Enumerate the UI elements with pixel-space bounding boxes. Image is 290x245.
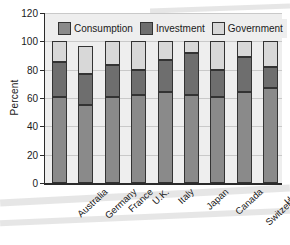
- x-label-u-k: U.K.: [150, 186, 171, 207]
- chart-legend: ConsumptionInvestmentGovernment: [54, 19, 287, 38]
- y-tick-mark: [40, 13, 44, 14]
- bar-segment-investment: [52, 62, 67, 97]
- bar-segment-government: [131, 41, 146, 69]
- bar-segment-government: [78, 46, 93, 74]
- legend-label-investment: Investment: [156, 23, 205, 34]
- legend-entry-consumption: Consumption: [58, 22, 133, 35]
- bar-segment-consumption: [158, 92, 173, 183]
- bar-segment-investment: [237, 57, 252, 92]
- legend-swatch-consumption: [58, 22, 71, 35]
- y-tick-label: 40: [27, 121, 38, 132]
- bar-segment-consumption: [52, 97, 67, 183]
- stacked-bar-chart: Percent 020406080100120 ConsumptionInves…: [0, 0, 290, 245]
- bar-segment-government: [237, 41, 252, 57]
- bar-segment-consumption: [237, 92, 252, 183]
- bar-u-s: [263, 41, 278, 183]
- legend-entry-government: Government: [212, 22, 283, 35]
- bar-segment-consumption: [131, 95, 146, 183]
- bar-segment-government: [52, 41, 67, 62]
- bars-layer: [44, 13, 282, 185]
- bar-segment-consumption: [184, 95, 199, 183]
- bar-france: [105, 41, 120, 183]
- y-tick-mark: [40, 70, 44, 71]
- bar-segment-investment: [105, 65, 120, 96]
- bar-segment-government: [105, 41, 120, 65]
- x-axis-labels: AustraliaGermanyFranceU.K.ItalyJapanCana…: [44, 186, 282, 244]
- y-tick-mark: [40, 183, 44, 184]
- legend-entry-investment: Investment: [140, 22, 205, 35]
- y-axis-line: [44, 13, 45, 185]
- bar-segment-government: [158, 41, 173, 59]
- y-tick-label: 20: [27, 149, 38, 160]
- bar-segment-consumption: [78, 105, 93, 183]
- x-label-italy: Italy: [176, 186, 196, 206]
- legend-label-consumption: Consumption: [74, 23, 133, 34]
- bar-u-k: [131, 41, 146, 183]
- y-tick-mark: [40, 155, 44, 156]
- y-tick-label: 60: [27, 93, 38, 104]
- bar-australia: [52, 41, 67, 183]
- y-tick-label: 80: [27, 64, 38, 75]
- scan-artifact: [150, 4, 290, 14]
- y-tick-label: 100: [21, 36, 38, 47]
- y-tick-mark: [40, 41, 44, 42]
- bar-segment-investment: [263, 67, 278, 88]
- bar-segment-investment: [131, 70, 146, 96]
- bar-segment-government: [263, 41, 278, 67]
- bar-segment-consumption: [263, 88, 278, 183]
- legend-swatch-government: [212, 22, 225, 35]
- bar-canada: [210, 41, 225, 183]
- legend-swatch-investment: [140, 22, 153, 35]
- legend-label-government: Government: [228, 23, 283, 34]
- y-axis-title: Percent: [9, 63, 20, 133]
- bar-segment-investment: [184, 53, 199, 96]
- bar-segment-consumption: [210, 97, 225, 183]
- x-label-canada: Canada: [233, 186, 265, 217]
- x-label-japan: Japan: [204, 186, 230, 212]
- bar-segment-investment: [210, 70, 225, 97]
- y-tick-mark: [40, 126, 44, 127]
- bar-italy: [158, 41, 173, 183]
- bar-segment-investment: [158, 60, 173, 93]
- bar-segment-consumption: [105, 97, 120, 183]
- y-tick-label: 120: [21, 8, 38, 19]
- y-tick-label: 0: [32, 178, 38, 189]
- bar-segment-investment: [78, 74, 93, 105]
- bar-germany: [78, 46, 93, 183]
- x-label-switzerland: Switzerland: [264, 186, 290, 228]
- bar-segment-government: [210, 41, 225, 69]
- y-tick-mark: [40, 98, 44, 99]
- plot-area: 020406080100120 ConsumptionInvestmentGov…: [44, 13, 282, 185]
- bar-switzerland: [237, 41, 252, 183]
- bar-segment-government: [184, 41, 199, 52]
- bar-japan: [184, 41, 199, 183]
